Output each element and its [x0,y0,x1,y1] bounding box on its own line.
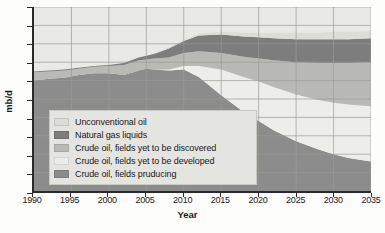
x-tick-label: 2035 [354,195,385,205]
legend-item: Unconventional oil [54,115,251,128]
legend-label: Unconventional oil [75,117,147,127]
chart-legend: Unconventional oilNatural gas liquidsCru… [49,110,257,185]
legend-item: Crude oil, fields yet to be discovered [54,141,251,154]
x-axis-tick-labels: 1990199520002005201020152020202520302035 [0,195,375,209]
legend-label: Crude oil, fields yet to be discovered [75,143,216,153]
legend-label: Crude oil, fields yet to be developed [75,156,214,166]
x-tick-label: 2000 [90,195,124,205]
legend-swatch [54,118,69,126]
legend-swatch [54,170,69,178]
x-tick-label: 2020 [241,195,275,205]
x-tick-label: 2025 [279,195,313,205]
x-tick-label: 1995 [53,195,87,205]
legend-swatch [54,144,69,152]
legend-item: Crude oil, fields pruducing [54,167,251,180]
x-tick-label: 2015 [203,195,237,205]
x-tick-label: 2030 [316,195,350,205]
legend-swatch [54,131,69,139]
x-tick-label: 2005 [128,195,162,205]
legend-swatch [54,157,69,165]
legend-item: Crude oil, fields yet to be developed [54,154,251,167]
x-axis-title: Year [0,209,375,220]
legend-label: Crude oil, fields pruducing [75,169,176,179]
legend-item: Natural gas liquids [54,128,251,141]
x-tick-label: 2010 [166,195,200,205]
legend-label: Natural gas liquids [75,130,147,140]
y-axis-title: mb/d [3,82,14,122]
x-tick-label: 1990 [15,195,49,205]
